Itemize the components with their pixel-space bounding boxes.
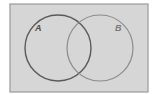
set-a-label: A — [34, 23, 42, 33]
set-b-label: B — [115, 23, 122, 33]
universe-rectangle — [10, 4, 148, 92]
venn-diagram: A B — [0, 0, 154, 94]
